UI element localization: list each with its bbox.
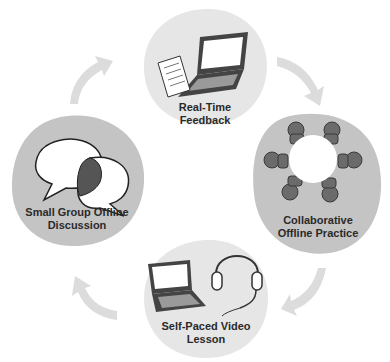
stage-label-line1: Self-Paced Video [140, 320, 272, 333]
stage-label-line2: Discussion [8, 219, 146, 232]
stage-small-group-offline-discussion: Small Group Offline Discussion [8, 110, 148, 250]
stage-label-line1: Small Group Offline [8, 206, 146, 219]
stage-label-line1: Collaborative [250, 214, 386, 227]
arrow-icon [70, 56, 113, 104]
arrow-icon [281, 268, 326, 316]
arrow-icon [72, 276, 117, 320]
stage-self-paced-video-lesson: Self-Paced Video Lesson [140, 234, 272, 360]
stage-label-line2: Lesson [140, 333, 272, 346]
arrow-icon [277, 57, 324, 106]
